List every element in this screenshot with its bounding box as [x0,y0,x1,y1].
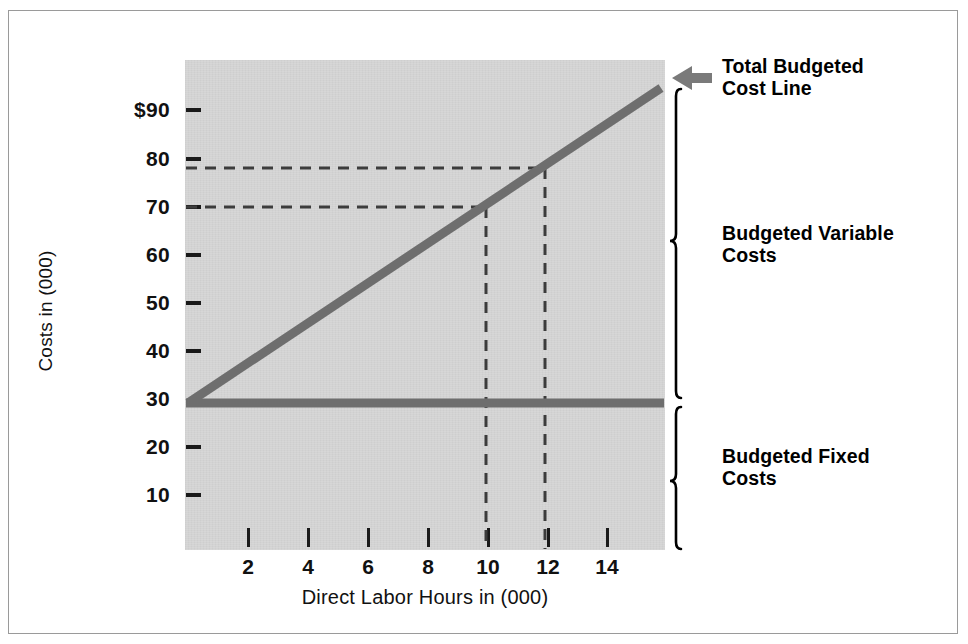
annotation-budgeted-fixed-costs: Budgeted Fixed Costs [722,445,932,489]
brace-variable-costs-icon [670,89,681,398]
annotation-variable-line2: Costs [722,244,932,266]
annotation-fixed-line1: Budgeted Fixed [722,445,932,467]
chart-figure: $90 80 70 60 50 40 30 20 10 2 4 6 8 10 1… [0,0,968,644]
annotation-total-line1: Total Budgeted [722,55,932,77]
annotation-fixed-line2: Costs [722,467,932,489]
brace-fixed-costs-icon [670,407,681,549]
arrow-left-icon [672,66,712,90]
annotation-total-budgeted-cost-line: Total Budgeted Cost Line [722,55,932,99]
annotation-total-line2: Cost Line [722,77,932,99]
annotation-budgeted-variable-costs: Budgeted Variable Costs [722,222,932,266]
reference-line-group [186,168,545,549]
series-total-budgeted-cost-line [188,88,661,403]
annotation-variable-line1: Budgeted Variable [722,222,932,244]
